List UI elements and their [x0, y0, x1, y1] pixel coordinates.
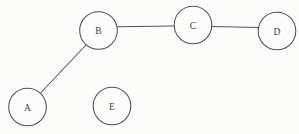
node-e[interactable]: E — [93, 87, 131, 125]
node-c-label: C — [190, 21, 196, 31]
diagram-canvas: A B C D E — [0, 0, 299, 134]
node-a[interactable]: A — [9, 88, 47, 126]
node-group: A B C D E — [9, 6, 296, 126]
node-a-label: A — [24, 103, 31, 113]
edge-b-c[interactable] — [117, 26, 174, 27]
node-d[interactable]: D — [258, 12, 296, 50]
graph-svg: A B C D E — [0, 0, 299, 134]
node-b[interactable]: B — [80, 12, 118, 50]
node-d-label: D — [274, 27, 281, 37]
edge-a-b[interactable] — [41, 46, 86, 93]
node-b-label: B — [95, 26, 101, 36]
node-c[interactable]: C — [174, 6, 212, 44]
edge-c-d[interactable] — [212, 27, 258, 28]
node-e-label: E — [109, 102, 115, 112]
edge-group — [41, 26, 258, 93]
